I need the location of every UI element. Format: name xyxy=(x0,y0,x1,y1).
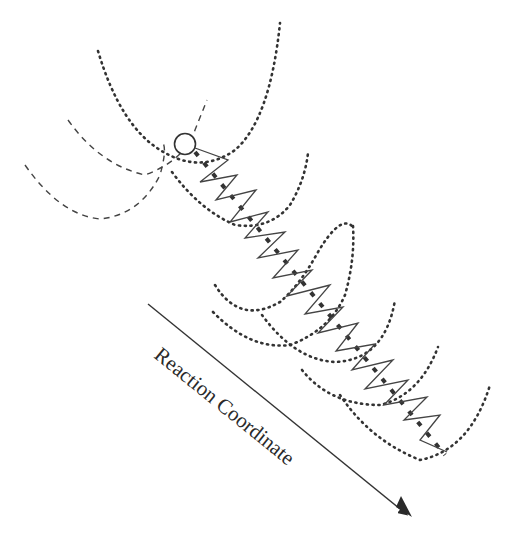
axis-label: Reaction Coordinate xyxy=(150,342,300,470)
dashed-well-outer xyxy=(25,143,164,219)
diagram-svg: Reaction Coordinate xyxy=(0,0,519,538)
dotted-well-4 xyxy=(213,226,353,346)
arrowhead-icon xyxy=(396,496,412,517)
dotted-well-2 xyxy=(172,153,308,226)
reaction-diagram: Reaction Coordinate xyxy=(0,0,519,538)
start-state-circle xyxy=(175,134,196,155)
product-well-curves xyxy=(98,23,490,460)
reaction-coordinate-arrow xyxy=(148,304,405,513)
dotted-well-7 xyxy=(340,385,490,460)
dotted-well-6 xyxy=(302,347,438,405)
